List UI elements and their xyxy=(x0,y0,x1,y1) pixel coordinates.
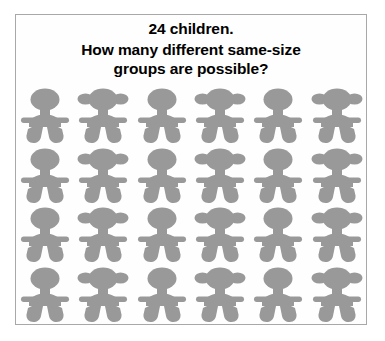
child-figure-icon xyxy=(75,205,131,264)
child-figure-icon xyxy=(192,265,248,324)
child-figure-icon xyxy=(250,265,306,324)
child-figure-icon xyxy=(75,265,131,324)
child-figure-icon xyxy=(134,205,190,264)
child-figure-icon xyxy=(17,86,73,145)
child-figure-icon xyxy=(17,205,73,264)
child-figure-icon xyxy=(250,205,306,264)
child-figure-icon xyxy=(134,146,190,205)
child-figure-icon xyxy=(309,146,365,205)
child-figure-icon xyxy=(75,86,131,145)
problem-prompt: 24 children. How many different same-siz… xyxy=(16,20,366,78)
child-figure-icon xyxy=(192,86,248,145)
child-figure-icon xyxy=(309,86,365,145)
child-figure-icon xyxy=(250,146,306,205)
problem-card: 24 children. How many different same-siz… xyxy=(15,14,367,325)
child-figure-icon xyxy=(17,265,73,324)
child-figure-icon xyxy=(75,146,131,205)
child-figure-grid xyxy=(16,86,366,324)
child-figure-icon xyxy=(17,146,73,205)
child-figure-icon xyxy=(309,265,365,324)
child-figure-icon xyxy=(192,146,248,205)
prompt-line-3: groups are possible? xyxy=(16,60,366,78)
child-figure-icon xyxy=(250,86,306,145)
prompt-line-1: 24 children. xyxy=(16,20,366,38)
child-figure-icon xyxy=(309,205,365,264)
worksheet-image: 24 children. How many different same-siz… xyxy=(0,0,385,341)
child-figure-icon xyxy=(192,205,248,264)
child-figure-icon xyxy=(134,265,190,324)
child-figure-icon xyxy=(134,86,190,145)
prompt-line-2: How many different same-size xyxy=(16,41,366,59)
